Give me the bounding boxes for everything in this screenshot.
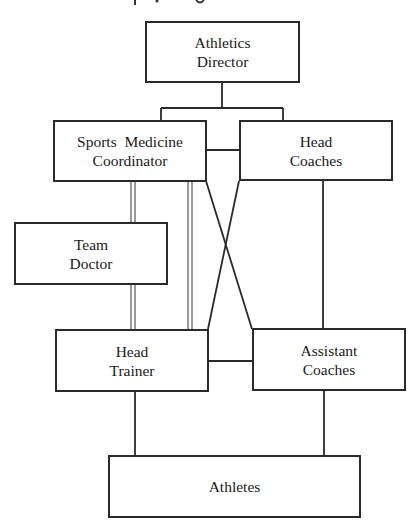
node-label: Assistant [301, 341, 358, 360]
node-label: Trainer [109, 361, 154, 380]
node-label: Coaches [290, 151, 343, 170]
node-label: Head [116, 342, 149, 361]
node-athletics-director: Athletics Director [145, 21, 300, 83]
node-sports-medicine-coordinator: Sports Medicine Coordinator [53, 120, 207, 182]
org-chart-canvas: Athletics Director Sports Medicine Coord… [0, 0, 417, 528]
node-label: Coordinator [93, 151, 168, 170]
node-team-doctor: Team Doctor [14, 222, 168, 285]
node-label: Sports Medicine [77, 132, 183, 151]
node-label: Coaches [303, 360, 356, 379]
node-label: Director [197, 52, 249, 71]
node-head-coaches: Head Coaches [239, 120, 393, 181]
node-label: Team [74, 235, 108, 254]
node-athletes: Athletes [108, 455, 361, 518]
node-assistant-coaches: Assistant Coaches [252, 328, 406, 391]
node-label: Head [300, 132, 333, 151]
node-label: Athletics [195, 33, 251, 52]
node-label: Athletes [209, 477, 261, 496]
node-head-trainer: Head Trainer [55, 329, 209, 392]
node-label: Doctor [69, 254, 112, 273]
